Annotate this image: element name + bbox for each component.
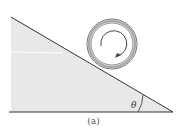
angle-label: θ bbox=[131, 100, 137, 110]
figure-caption: (a) bbox=[0, 116, 187, 126]
rolling-ring bbox=[87, 19, 137, 69]
incline-diagram: θ bbox=[0, 0, 187, 131]
